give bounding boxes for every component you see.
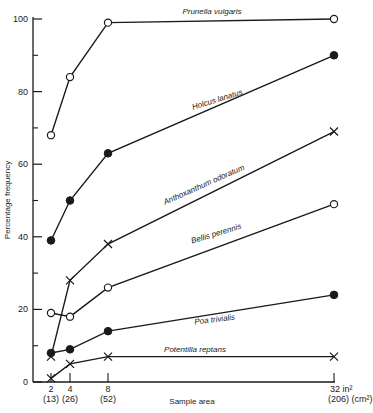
x-tick-label: 8: [105, 384, 110, 394]
x-axis-title: Sample area: [169, 397, 215, 406]
y-tick-label: 20: [18, 304, 28, 314]
y-tick-label: 60: [18, 159, 28, 169]
filled-circle-marker: [66, 197, 74, 205]
x-tick-sublabel: (26): [62, 394, 78, 404]
x-tick-sublabel: (206) (cm²): [328, 394, 373, 404]
filled-circle-marker: [330, 291, 338, 299]
filled-circle-marker: [47, 349, 55, 357]
y-tick-label: 0: [23, 377, 28, 387]
series-label: Holcus lanatus: [191, 88, 244, 112]
series-lines: [47, 15, 338, 382]
filled-circle-marker: [104, 150, 112, 158]
series-holcus-lanatus: [47, 52, 338, 245]
filled-circle-marker: [104, 327, 112, 335]
series-line: [51, 357, 334, 379]
y-axis-title: Percentage frequency: [3, 161, 12, 239]
series-line: [51, 204, 334, 317]
filled-circle-marker: [66, 346, 74, 354]
x-tick-sublabel: (13): [43, 394, 59, 404]
series-potentilla-reptans: [47, 353, 338, 383]
x-tick-label: 32 in²: [330, 384, 353, 394]
open-circle-marker: [66, 313, 73, 320]
series-label: Bellis perennis: [190, 222, 242, 246]
chart-canvas: 0204060801002(13)4(26)8(52)32 in²(206) (…: [0, 0, 373, 413]
y-tick-label: 80: [18, 87, 28, 97]
open-circle-marker: [104, 284, 111, 291]
filled-circle-marker: [47, 237, 55, 245]
series-line: [51, 55, 334, 240]
series-label: Poa trivialis: [194, 313, 236, 327]
x-tick-sublabel: (52): [100, 394, 116, 404]
series-prunella-vulgaris: [47, 15, 337, 138]
series-label: Anthoxanthum odoratum: [161, 163, 246, 207]
series-label: Potentilla reptans: [164, 345, 226, 354]
open-circle-marker: [47, 309, 54, 316]
open-circle-marker: [66, 73, 73, 80]
y-tick-label: 40: [18, 232, 28, 242]
filled-circle-marker: [330, 52, 338, 60]
open-circle-marker: [47, 132, 54, 139]
open-circle-marker: [330, 15, 337, 22]
series-label: Prunella vulgaris: [182, 7, 241, 16]
line-chart: 0204060801002(13)4(26)8(52)32 in²(206) (…: [0, 0, 373, 413]
x-tick-label: 2: [48, 384, 53, 394]
y-tick-label: 100: [13, 14, 28, 24]
x-tick-label: 4: [67, 384, 72, 394]
series-labels: Prunella vulgarisHolcus lanatusAnthoxant…: [161, 7, 246, 354]
series-line: [51, 19, 334, 135]
open-circle-marker: [104, 19, 111, 26]
open-circle-marker: [330, 201, 337, 208]
